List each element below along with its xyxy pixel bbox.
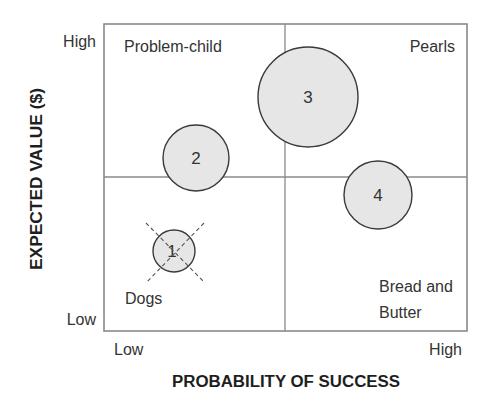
quadrant-label-bread-and-butter-line1: Bread and — [379, 278, 453, 295]
bubble-3: 3 — [258, 47, 358, 147]
bubble-1: 1 — [146, 223, 205, 283]
quadrant-label-bread-and-butter-line2: Butter — [379, 304, 422, 321]
quadrant-label-dogs: Dogs — [125, 290, 162, 307]
quadrant-label-problem-child: Problem-child — [124, 38, 222, 55]
x-tick-high: High — [429, 341, 462, 358]
bubble-2: 2 — [163, 125, 229, 191]
bubble-matrix-chart: Problem-child Pearls Dogs Bread and Butt… — [0, 0, 492, 404]
x-axis-title: PROBABILITY OF SUCCESS — [172, 373, 400, 390]
x-tick-low: Low — [114, 341, 144, 358]
bubble-1-label: 1 — [167, 242, 176, 261]
bubble-3-label: 3 — [303, 88, 312, 107]
bubble-2-label: 2 — [191, 149, 200, 168]
y-axis-title: EXPECTED VALUE ($) — [28, 88, 45, 270]
bubble-4-label: 4 — [373, 186, 382, 205]
bubble-4: 4 — [344, 161, 412, 229]
y-tick-low: Low — [67, 311, 97, 328]
quadrant-label-pearls: Pearls — [410, 38, 455, 55]
y-tick-high: High — [63, 33, 96, 50]
